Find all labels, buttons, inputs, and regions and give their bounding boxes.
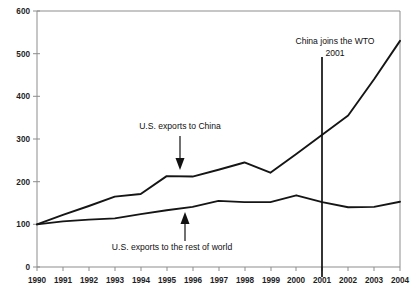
- x-tick-label-1995: 1995: [158, 276, 177, 285]
- x-tick-label-1991: 1991: [54, 276, 73, 285]
- x-tick-label-1999: 1999: [262, 276, 281, 285]
- china-series-annotation-label: U.S. exports to China: [139, 121, 221, 131]
- rest-of-world-series-annotation-label: U.S. exports to the rest of world: [112, 242, 233, 252]
- x-tick-label-1996: 1996: [184, 276, 203, 285]
- x-tick-label-2000: 2000: [287, 276, 306, 285]
- x-tick-label-2002: 2002: [339, 276, 358, 285]
- y-tick-label-0: 0: [25, 263, 30, 272]
- x-tick-label-1997: 1997: [210, 276, 229, 285]
- plot-frame: [37, 11, 400, 267]
- line-chart: 600 500 400 300 200 100 0 1990 1991 1992…: [0, 0, 415, 299]
- x-tick-label-2003: 2003: [365, 276, 384, 285]
- wto-annotation-line-2: 2001: [325, 48, 344, 58]
- arrow-down-icon: [176, 158, 185, 170]
- y-tick-label-500: 500: [16, 50, 30, 59]
- arrow-up-icon: [181, 212, 190, 224]
- x-tick-label-2001: 2001: [313, 276, 332, 285]
- y-tick-label-100: 100: [16, 220, 30, 229]
- x-tick-label-2004: 2004: [391, 276, 410, 285]
- y-tick-label-200: 200: [16, 178, 30, 187]
- x-axis-ticks: 1990 1991 1992 1993 1994 1995 1996 1997 …: [28, 267, 410, 285]
- x-tick-label-1998: 1998: [236, 276, 255, 285]
- x-tick-label-1990: 1990: [28, 276, 47, 285]
- x-tick-label-1993: 1993: [106, 276, 125, 285]
- y-tick-label-600: 600: [16, 7, 30, 16]
- wto-annotation-line-1: China joins the WTO: [295, 36, 374, 46]
- series-line-us-exports-to-china: [37, 41, 400, 224]
- y-tick-label-300: 300: [16, 135, 30, 144]
- series-line-us-exports-to-rest-of-world: [37, 195, 400, 224]
- chart-container: 600 500 400 300 200 100 0 1990 1991 1992…: [0, 0, 415, 299]
- y-tick-label-400: 400: [16, 92, 30, 101]
- x-tick-label-1992: 1992: [80, 276, 99, 285]
- x-tick-label-1994: 1994: [132, 276, 151, 285]
- y-axis-ticks: 600 500 400 300 200 100 0: [16, 7, 40, 272]
